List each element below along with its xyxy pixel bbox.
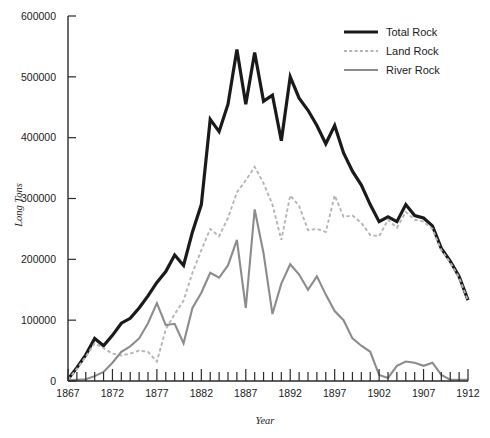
y-axis-title: Long Tons <box>13 183 24 228</box>
legend-label-land-rock: Land Rock <box>386 45 439 57</box>
series-group <box>68 49 468 380</box>
x-tick-label: 1887 <box>234 387 258 399</box>
chart-legend: Total RockLand RockRiver Rock <box>344 26 440 76</box>
y-tick-label: 0 <box>50 375 56 387</box>
y-tick-label: 200000 <box>21 253 56 265</box>
x-tick-label: 1877 <box>145 387 169 399</box>
x-tick-label: 1907 <box>412 387 436 399</box>
legend-label-river-rock: River Rock <box>386 64 440 76</box>
y-tick-label: 400000 <box>21 131 56 143</box>
x-tick-label: 1872 <box>101 387 125 399</box>
series-line-total-rock <box>68 49 468 379</box>
plot-area <box>68 49 468 380</box>
x-tick-label: 1902 <box>367 387 391 399</box>
x-tick-label: 1867 <box>56 387 80 399</box>
legend-label-total-rock: Total Rock <box>386 26 438 38</box>
x-tick-label: 1912 <box>456 387 480 399</box>
series-line-river-rock <box>68 209 468 380</box>
x-tick-label: 1882 <box>190 387 214 399</box>
x-axis-title: Year <box>256 415 276 426</box>
line-chart: 0100000200000300000400000500000600000186… <box>0 0 490 438</box>
chart-container: 0100000200000300000400000500000600000186… <box>0 0 490 438</box>
y-tick-label: 600000 <box>21 10 56 22</box>
x-tick-label: 1897 <box>323 387 347 399</box>
y-tick-label: 500000 <box>21 71 56 83</box>
y-tick-label: 100000 <box>21 314 56 326</box>
x-tick-label: 1892 <box>279 387 303 399</box>
y-tick-label: 300000 <box>21 192 56 204</box>
